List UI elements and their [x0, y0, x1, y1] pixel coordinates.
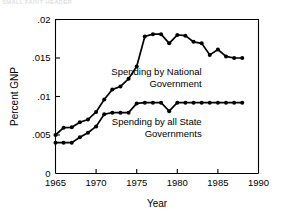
series-point — [62, 141, 66, 145]
x-tick-label-4: 1985 — [207, 177, 228, 188]
chart-axes — [56, 20, 259, 174]
series-point — [167, 41, 171, 45]
series-point — [62, 126, 66, 130]
series-point — [216, 101, 220, 105]
series-point — [216, 48, 220, 52]
series-point — [127, 77, 131, 81]
chart-page: SMALL FAINT HEADER 0.005.01.015.02196519… — [0, 0, 292, 218]
series-point — [192, 101, 196, 105]
series-point — [135, 101, 139, 105]
series-point — [118, 111, 122, 115]
x-tick-label-0: 1965 — [45, 177, 66, 188]
series-point — [200, 41, 204, 45]
y-axis-title: Percent GNP — [9, 67, 20, 126]
series-point — [110, 88, 114, 92]
series-point — [240, 56, 244, 60]
series-point — [118, 84, 122, 88]
series-point — [151, 101, 155, 105]
series-point — [232, 56, 236, 60]
x-tick-label-3: 1980 — [167, 177, 188, 188]
series-point — [102, 112, 106, 116]
series-point — [86, 131, 90, 135]
series-point — [175, 101, 179, 105]
plot-frame — [56, 20, 259, 174]
series-point — [183, 101, 187, 105]
y-tick-label-2: .01 — [37, 91, 50, 102]
series-point — [200, 101, 204, 105]
series-point — [110, 111, 114, 115]
x-tick-label-5: 1990 — [248, 177, 269, 188]
series-point — [159, 101, 163, 105]
series-point — [192, 40, 196, 44]
x-tick-label-2: 1975 — [126, 177, 147, 188]
x-tick-label-1: 1970 — [86, 177, 107, 188]
series-point — [175, 33, 179, 37]
series-point — [143, 101, 147, 105]
series-point — [78, 120, 82, 124]
series-point — [167, 109, 171, 113]
x-axis-title: Year — [147, 198, 168, 209]
series-point — [86, 118, 90, 122]
series-point — [224, 54, 228, 58]
series-point — [54, 141, 58, 145]
series-point — [240, 101, 244, 105]
series-point — [224, 101, 228, 105]
series-point — [208, 53, 212, 57]
state-governments-label-line2: Governments — [145, 128, 202, 139]
national-government-label-line1: Spending by National — [111, 66, 201, 77]
y-tick-label-1: .005 — [32, 129, 51, 140]
series-point — [70, 141, 74, 145]
series-point — [232, 101, 236, 105]
line-chart: 0.005.01.015.02196519701975198019851990Y… — [0, 0, 292, 218]
y-tick-label-4: .02 — [37, 14, 50, 25]
series-point — [159, 32, 163, 36]
series-point — [208, 101, 212, 105]
state-governments-label-line1: Spending by all State — [112, 116, 202, 127]
series-point — [54, 133, 58, 137]
chart-labels: 0.005.01.015.02196519701975198019851990Y… — [9, 14, 269, 209]
series-point — [78, 135, 82, 139]
national-government-label-line2: Government — [149, 78, 202, 89]
series-point — [143, 34, 147, 38]
series-point — [183, 34, 187, 38]
series-point — [70, 125, 74, 129]
series-point — [94, 125, 98, 129]
series-point — [102, 98, 106, 102]
series-point — [127, 111, 131, 115]
series-point — [151, 32, 155, 36]
series-point — [94, 110, 98, 114]
y-tick-label-3: .015 — [32, 52, 51, 63]
